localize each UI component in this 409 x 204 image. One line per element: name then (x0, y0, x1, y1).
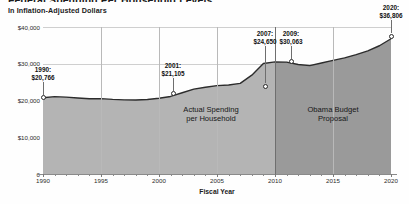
annotation-1990-value: $20,766 (20, 74, 66, 82)
band-label-actual-spending: Actual Spending per Household (163, 105, 259, 124)
annotation-2009-value: $30,063 (268, 38, 314, 46)
annotation-2009-year: 2009: (268, 30, 314, 38)
x-tick-label-2000: 2000 (144, 177, 174, 184)
x-tick-label-2010: 2010 (260, 177, 290, 184)
x-tick-1991 (55, 174, 56, 176)
annotation-1990-leader (43, 82, 44, 95)
chart-subtitle: In Inflation-Adjusted Dollars (8, 6, 107, 15)
x-tick-2014 (321, 174, 322, 176)
x-tick-label-1995: 1995 (86, 177, 116, 184)
band-label-proposal-line2: Proposal (287, 114, 379, 123)
annotation-2020-year: 2020: (368, 4, 409, 12)
chart-title: Federal Spending Per Household Levels (8, 0, 268, 2)
annotation-2007-leader (265, 46, 266, 83)
x-tick-2018 (368, 174, 369, 176)
vline-1995 (101, 27, 102, 174)
x-tick-2004 (205, 174, 206, 176)
vline-2005 (217, 27, 218, 174)
x-tick-1997 (124, 174, 125, 176)
annotation-2001-marker (171, 91, 176, 96)
annotation-1990-marker (41, 95, 46, 100)
x-tick-1994 (89, 174, 90, 176)
x-tick-2007 (240, 174, 241, 176)
y-tick-label-40000: $40,000 (2, 24, 40, 31)
x-tick-2012 (298, 174, 299, 176)
band-label-actual-line2: per Household (163, 114, 259, 123)
y-tick-label-10000: $10,000 (2, 134, 40, 141)
x-tick-2001 (171, 174, 172, 176)
band-label-proposal-line1: Obama Budget (287, 105, 379, 114)
plot-area: Actual Spending per Household Obama Budg… (43, 27, 391, 174)
annotation-2007-marker (263, 84, 268, 89)
x-tick-2002 (182, 174, 183, 176)
x-tick-1992 (66, 174, 67, 176)
spending-per-household-chart: Federal Spending Per Household Levels In… (0, 0, 409, 204)
annotation-2001-value: $21,105 (150, 70, 196, 78)
x-tick-2013 (310, 174, 311, 176)
x-tick-1998 (136, 174, 137, 176)
vline-2000 (159, 27, 160, 174)
x-tick-2009 (263, 174, 264, 176)
x-tick-2006 (229, 174, 230, 176)
x-tick-2017 (356, 174, 357, 176)
x-tick-label-2020: 2020 (376, 177, 406, 184)
x-tick-2019 (379, 174, 380, 176)
x-tick-1993 (78, 174, 79, 176)
x-tick-label-2005: 2005 (202, 177, 232, 184)
vline-2015 (333, 27, 334, 174)
annotation-2009: 2009: $30,063 (268, 30, 314, 45)
x-tick-2011 (287, 174, 288, 176)
annotation-2020-value: $36,806 (368, 12, 409, 20)
annotation-1990-year: 1990: (20, 66, 66, 74)
x-tick-2003 (194, 174, 195, 176)
x-axis-title: Fiscal Year (177, 188, 257, 195)
x-tick-label-1990: 1990 (28, 177, 58, 184)
x-tick-2016 (345, 174, 346, 176)
x-tick-2008 (252, 174, 253, 176)
annotation-2001-year: 2001: (150, 62, 196, 70)
band-label-actual-line1: Actual Spending (163, 105, 259, 114)
annotation-2009-leader (291, 46, 292, 59)
vline-2010 (275, 27, 276, 174)
annotation-2020-leader (391, 20, 392, 33)
annotation-2020: 2020: $36,806 (368, 4, 409, 19)
x-tick-label-2015: 2015 (318, 177, 348, 184)
band-label-obama-proposal: Obama Budget Proposal (287, 105, 379, 124)
y-tick-label-20000: $20,000 (2, 97, 40, 104)
annotation-1990: 1990: $20,766 (20, 66, 66, 81)
annotation-2020-marker (389, 34, 394, 39)
annotation-2009-marker (289, 59, 294, 64)
x-tick-1996 (113, 174, 114, 176)
annotation-2001: 2001: $21,105 (150, 62, 196, 77)
annotation-2001-leader (173, 78, 174, 91)
x-tick-1999 (147, 174, 148, 176)
